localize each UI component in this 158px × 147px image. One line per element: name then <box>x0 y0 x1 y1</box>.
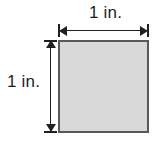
top-dimension-arrowhead-left-icon <box>59 26 67 36</box>
top-dimension-label: 1 in. <box>89 4 122 21</box>
top-dimension-cap-left <box>58 24 60 37</box>
geometry-figure: 1 in. 1 in. <box>0 0 158 147</box>
top-dimension-cap-right <box>147 24 149 37</box>
left-dimension-cap-top <box>44 40 57 42</box>
square-shape <box>58 40 149 133</box>
left-dimension-label: 1 in. <box>7 73 40 90</box>
left-dimension-arrow-line <box>50 42 51 131</box>
top-dimension-arrow-line <box>60 30 147 31</box>
left-dimension-cap-bottom <box>44 131 57 133</box>
